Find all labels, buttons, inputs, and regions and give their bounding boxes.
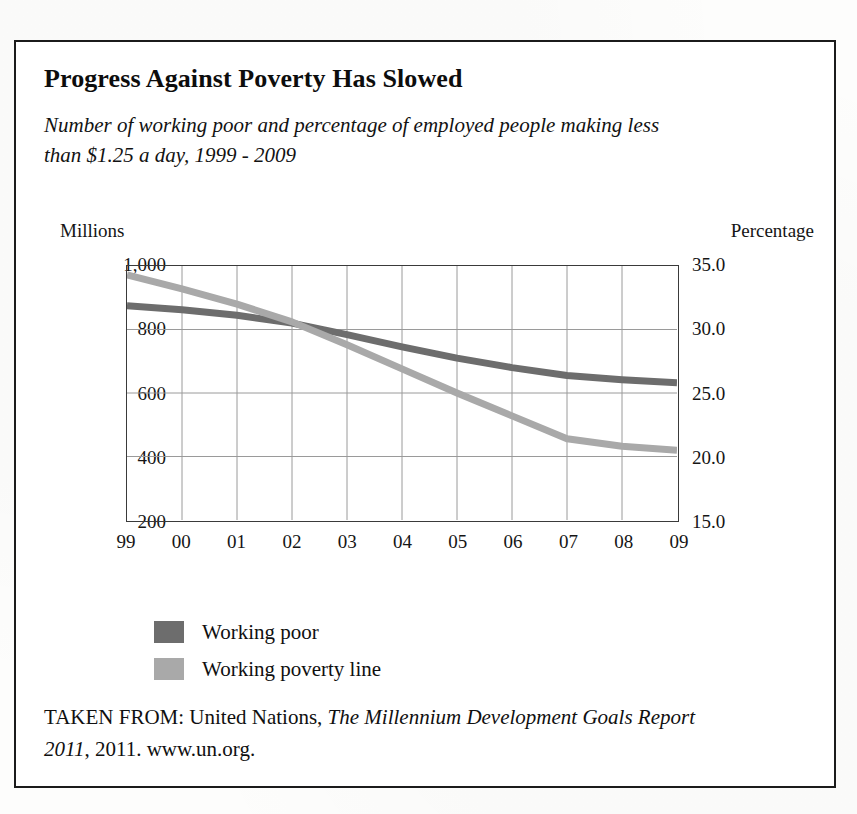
x-axis-tick-label: 99 <box>117 531 136 553</box>
legend-item-working-poverty-line: Working poverty line <box>154 657 381 681</box>
right-axis-tick-label: 25.0 <box>692 383 725 405</box>
x-axis-tick-label: 02 <box>282 531 301 553</box>
right-axis-tick-label: 35.0 <box>692 254 725 276</box>
chart-plot-svg <box>127 266 677 520</box>
x-axis-tick-label: 03 <box>338 531 357 553</box>
x-axis-tick-label: 08 <box>614 531 633 553</box>
legend-label-working-poor: Working poor <box>202 620 319 645</box>
x-axis-tick-label: 06 <box>504 531 523 553</box>
x-axis-tick-label: 09 <box>670 531 689 553</box>
source-suffix: , 2011. www.un.org. <box>84 737 255 761</box>
legend-swatch-working-poor <box>154 621 184 643</box>
plot-area <box>126 265 679 522</box>
source-caption: TAKEN FROM: United Nations, The Millenni… <box>44 702 744 765</box>
figure-frame: Progress Against Poverty Has Slowed Numb… <box>14 40 836 788</box>
chart-container: Millions Percentage 2004006008001,000 15… <box>16 42 834 582</box>
x-axis-tick-label: 05 <box>448 531 467 553</box>
x-axis-tick-label: 01 <box>227 531 246 553</box>
legend-item-working-poor: Working poor <box>154 620 381 644</box>
chart-legend: Working poor Working poverty line <box>154 620 381 694</box>
x-axis-tick-label: 04 <box>393 531 412 553</box>
right-axis-tick-label: 15.0 <box>692 511 725 533</box>
source-prefix: TAKEN FROM: United Nations, <box>44 705 328 729</box>
right-axis-tick-label: 20.0 <box>692 447 725 469</box>
legend-swatch-working-poverty-line <box>154 658 184 680</box>
left-axis-header: Millions <box>60 220 124 242</box>
right-axis-header: Percentage <box>731 220 814 242</box>
legend-label-working-poverty-line: Working poverty line <box>202 657 381 682</box>
x-axis-tick-label: 07 <box>559 531 578 553</box>
right-axis-tick-label: 30.0 <box>692 318 725 340</box>
figure-page: Progress Against Poverty Has Slowed Numb… <box>0 0 857 814</box>
x-axis-tick-label: 00 <box>172 531 191 553</box>
